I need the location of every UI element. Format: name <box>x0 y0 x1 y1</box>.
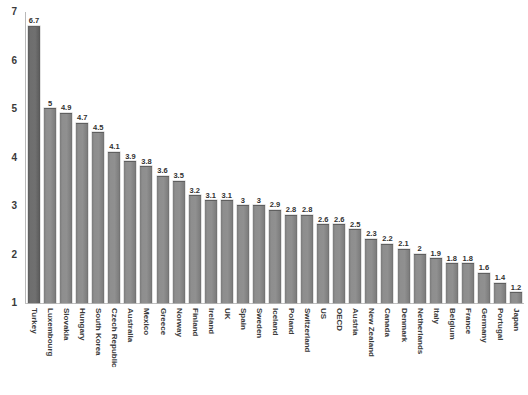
bar[interactable] <box>44 108 56 303</box>
y-tick-label: 2 <box>11 250 17 260</box>
bar-slot: 2 <box>412 12 428 303</box>
x-axis-tick-label: Switzerland <box>303 308 311 352</box>
x-axis-tick-label: Slovakia <box>62 308 70 340</box>
bar[interactable] <box>253 205 265 303</box>
bar-slot: 3.8 <box>138 12 154 303</box>
bar[interactable] <box>76 123 88 303</box>
bar[interactable] <box>157 176 169 303</box>
bar[interactable] <box>381 244 393 303</box>
x-axis-line <box>25 303 524 304</box>
bar[interactable] <box>60 113 72 303</box>
x-label-slot: Spain <box>235 306 251 395</box>
x-axis-tick-label: New Zealand <box>367 308 375 357</box>
bar-slot: 2.1 <box>395 12 411 303</box>
bar-slot: 3.2 <box>187 12 203 303</box>
x-axis-tick-label: UK <box>223 308 231 320</box>
y-tick-label: 6 <box>11 56 17 66</box>
x-axis-tick-label: Turkey <box>30 308 38 334</box>
x-label-slot: Switzerland <box>299 306 315 395</box>
bar[interactable] <box>108 152 120 303</box>
bar[interactable] <box>124 161 136 303</box>
bar[interactable] <box>333 224 345 303</box>
x-axis-tick-label: Netherlands <box>416 308 424 354</box>
bar-slot: 2.9 <box>267 12 283 303</box>
x-label-slot: Norway <box>171 306 187 395</box>
x-axis-tick-label: Austria <box>351 308 359 336</box>
bar[interactable] <box>237 205 249 303</box>
x-axis-tick-label: Luxembourg <box>46 308 54 356</box>
bar-slot: 1.4 <box>492 12 508 303</box>
bar[interactable] <box>365 239 377 303</box>
x-label-slot: Poland <box>283 306 299 395</box>
x-axis-tick-label: Denmark <box>400 308 408 342</box>
x-label-slot: OECD <box>331 306 347 395</box>
bar-slot: 2.5 <box>347 12 363 303</box>
x-label-slot: Finland <box>187 306 203 395</box>
x-label-slot: Ireland <box>203 306 219 395</box>
x-axis-tick-label: Belgium <box>448 308 456 340</box>
bar-slot: 2.8 <box>283 12 299 303</box>
bar[interactable] <box>430 258 442 303</box>
x-label-slot: Belgium <box>444 306 460 395</box>
bar-slot: 6.7 <box>26 12 42 303</box>
x-axis-tick-label: Poland <box>287 308 295 335</box>
bar[interactable] <box>446 263 458 303</box>
y-tick-label: 3 <box>11 201 17 211</box>
y-tick-label: 7 <box>11 7 17 17</box>
bar[interactable] <box>414 254 426 304</box>
x-axis-tick-label: Ireland <box>207 308 215 334</box>
x-label-slot: Germany <box>476 306 492 395</box>
bar[interactable] <box>173 181 185 303</box>
bar[interactable] <box>349 229 361 303</box>
bar[interactable] <box>28 26 40 303</box>
bar[interactable] <box>269 210 281 303</box>
bar[interactable] <box>205 200 217 303</box>
bar-slot: 3 <box>251 12 267 303</box>
bar-slot: 5 <box>42 12 58 303</box>
bar[interactable] <box>221 200 233 303</box>
x-label-slot: New Zealand <box>363 306 379 395</box>
bar[interactable] <box>398 249 410 303</box>
bar-chart: 1234567 6.754.94.74.54.13.93.83.63.53.23… <box>0 0 528 395</box>
x-axis-tick-label: Canada <box>383 308 391 337</box>
bar-slot: 1.6 <box>476 12 492 303</box>
bar-slot: 4.7 <box>74 12 90 303</box>
x-label-slot: Iceland <box>267 306 283 395</box>
bar-slot: 3.1 <box>219 12 235 303</box>
x-label-slot: Mexico <box>138 306 154 395</box>
x-axis-tick-label: Spain <box>239 308 247 330</box>
x-label-slot: Greece <box>155 306 171 395</box>
x-axis-tick-label: Japan <box>512 308 520 331</box>
bar[interactable] <box>510 292 522 303</box>
x-label-slot: Japan <box>508 306 524 395</box>
x-axis-tick-label: Hungary <box>78 308 86 340</box>
x-axis-tick-label: Italy <box>432 308 440 324</box>
bar-slot: 3.5 <box>171 12 187 303</box>
x-label-slot: Austria <box>347 306 363 395</box>
bar[interactable] <box>189 195 201 303</box>
x-axis-tick-label: Germany <box>480 308 488 343</box>
bar-slot: 3.1 <box>203 12 219 303</box>
y-tick-label: 4 <box>11 153 17 163</box>
bar[interactable] <box>301 215 313 303</box>
bar[interactable] <box>140 166 152 303</box>
x-label-slot: Slovakia <box>58 306 74 395</box>
bar-value-label: 1.2 <box>501 284 528 292</box>
y-axis: 1234567 <box>0 0 22 310</box>
x-axis-tick-label: US <box>319 308 327 319</box>
x-axis-tick-label: Greece <box>159 308 167 335</box>
x-axis-tick-label: Portugal <box>496 308 504 340</box>
x-label-slot: Sweden <box>251 306 267 395</box>
x-axis-tick-label: Norway <box>175 308 183 337</box>
x-axis-tick-label: Australia <box>126 308 134 342</box>
bar-slot: 2.2 <box>379 12 395 303</box>
bar[interactable] <box>92 132 104 303</box>
bar-slot: 3 <box>235 12 251 303</box>
bar[interactable] <box>317 224 329 303</box>
x-axis-tick-label: Czech Republic <box>110 308 118 368</box>
x-label-slot: Portugal <box>492 306 508 395</box>
bar-slot: 2.3 <box>363 12 379 303</box>
x-axis-tick-label: France <box>464 308 472 334</box>
x-axis-tick-label: Sweden <box>255 308 263 338</box>
bar[interactable] <box>285 215 297 303</box>
